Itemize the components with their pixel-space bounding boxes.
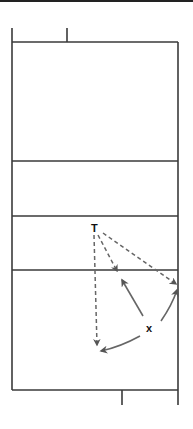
player-label-t: T — [91, 222, 98, 234]
dashed-arrow-center-net — [98, 235, 117, 271]
court-diagram: T x — [0, 0, 193, 429]
court — [12, 28, 178, 405]
dashed-arrow-left-deep — [94, 235, 97, 345]
player-label-x: x — [146, 322, 153, 334]
solid-arrow-to-center-net — [122, 280, 143, 316]
ball-paths — [94, 233, 176, 345]
solid-arrow-to-right-sideline — [161, 290, 177, 321]
dashed-arrow-right-sideline — [103, 233, 176, 284]
solid-arrow-to-left-deep — [101, 336, 140, 351]
player-movements — [101, 280, 177, 351]
